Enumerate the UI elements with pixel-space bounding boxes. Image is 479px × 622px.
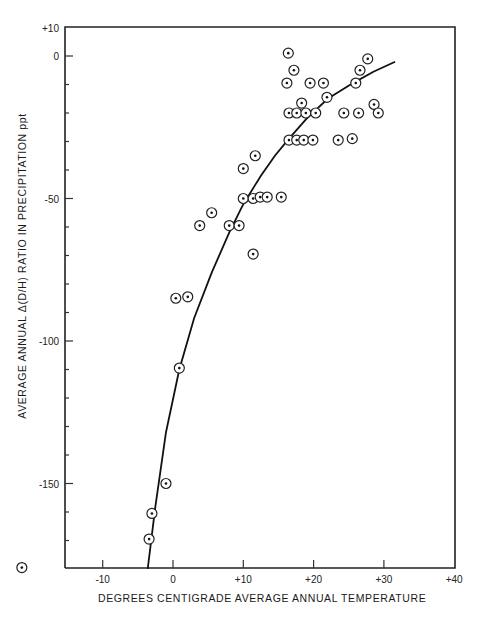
svg-text:-10: -10 xyxy=(95,574,110,585)
svg-text:-150: -150 xyxy=(39,479,59,490)
data-point xyxy=(308,135,318,145)
data-point xyxy=(311,108,321,118)
svg-text:0: 0 xyxy=(170,574,176,585)
x-axis-label: DEGREES CENTIGRADE AVERAGE ANNUAL TEMPER… xyxy=(98,592,426,604)
data-point xyxy=(333,135,343,145)
data-points xyxy=(17,48,383,572)
y-axis-label-text: AVERAGE ANNUAL Δ(D/H) RATIO IN PRECIPITA… xyxy=(16,113,28,418)
data-point xyxy=(276,192,286,202)
plot-frame xyxy=(65,27,455,568)
data-point xyxy=(363,54,373,64)
data-point xyxy=(318,78,328,88)
data-point xyxy=(171,293,181,303)
data-point xyxy=(297,98,307,108)
data-point xyxy=(373,108,383,118)
data-point xyxy=(207,208,217,218)
data-point xyxy=(322,92,332,102)
data-point xyxy=(355,65,365,75)
svg-text:-100: -100 xyxy=(39,336,59,347)
chart-canvas: -100+10+20+30+40+100-50-100-150 xyxy=(0,0,479,622)
svg-text:+20: +20 xyxy=(305,574,322,585)
y-axis-label: AVERAGE ANNUAL Δ(D/H) RATIO IN PRECIPITA… xyxy=(2,56,42,476)
data-point xyxy=(174,363,184,373)
axis-ticks xyxy=(65,56,384,568)
data-point xyxy=(262,192,272,202)
data-point xyxy=(289,65,299,75)
svg-text:+10: +10 xyxy=(42,23,59,34)
data-point xyxy=(292,108,302,118)
data-point xyxy=(351,78,361,88)
data-point xyxy=(195,221,205,231)
data-point xyxy=(183,292,193,302)
data-point xyxy=(283,48,293,58)
fitted-curve xyxy=(148,62,395,569)
data-point xyxy=(305,78,315,88)
data-point xyxy=(161,479,171,489)
data-point xyxy=(234,221,244,231)
data-point xyxy=(17,563,27,573)
data-point xyxy=(147,508,157,518)
data-point xyxy=(238,164,248,174)
data-point xyxy=(224,221,234,231)
svg-text:+30: +30 xyxy=(375,574,392,585)
tick-labels: -100+10+20+30+40+100-50-100-150 xyxy=(39,23,463,586)
svg-text:0: 0 xyxy=(53,51,59,62)
data-point xyxy=(250,151,260,161)
data-point xyxy=(354,108,364,118)
data-point xyxy=(282,78,292,88)
svg-text:+10: +10 xyxy=(235,574,252,585)
data-point xyxy=(347,134,357,144)
svg-text:-50: -50 xyxy=(45,194,60,205)
data-point xyxy=(301,108,311,118)
data-point xyxy=(144,534,154,544)
data-point xyxy=(238,194,248,204)
data-point xyxy=(339,108,349,118)
data-point xyxy=(299,135,309,145)
data-point xyxy=(248,249,258,259)
svg-text:+40: +40 xyxy=(446,574,463,585)
